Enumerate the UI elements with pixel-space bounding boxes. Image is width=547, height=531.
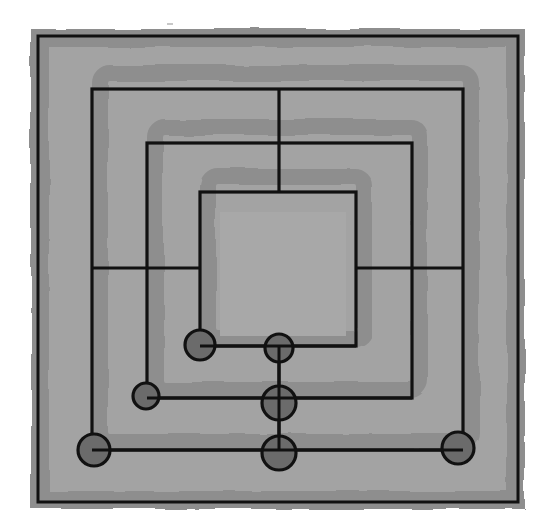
morris-board[interactable] — [0, 0, 547, 531]
piece-disc[interactable] — [442, 432, 474, 464]
game-stage — [0, 0, 547, 531]
piece-disc[interactable] — [133, 383, 159, 409]
piece-middle-bottom-left[interactable] — [133, 383, 159, 409]
center-field — [220, 212, 346, 336]
piece-outer-bottom-right[interactable] — [442, 432, 474, 464]
